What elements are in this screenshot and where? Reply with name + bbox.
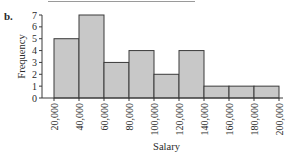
histogram-bar <box>204 86 229 98</box>
x-tick-label: 140,000 <box>199 103 210 136</box>
x-tick-label: 100,000 <box>149 103 160 136</box>
x-tick-label: 120,000 <box>174 103 185 136</box>
histogram-bar <box>254 86 279 98</box>
y-tick-label: 5 <box>32 33 37 44</box>
histogram-bar <box>179 51 204 98</box>
y-tick-label: 6 <box>32 21 37 32</box>
histogram-bar <box>229 86 254 98</box>
x-tick-label: 200,000 <box>274 103 285 136</box>
y-tick-label: 7 <box>32 10 37 21</box>
histogram-bar <box>129 51 154 98</box>
y-tick-label: 4 <box>32 45 37 56</box>
x-tick-label: 180,000 <box>249 103 260 136</box>
x-tick-label: 40,000 <box>74 103 85 131</box>
histogram-bar <box>54 39 79 98</box>
histogram-bar <box>154 74 179 98</box>
x-tick-label: 60,000 <box>99 103 110 131</box>
x-tick-label: 20,000 <box>49 103 60 131</box>
y-tick-label: 3 <box>32 57 37 68</box>
histogram-bar <box>104 62 129 98</box>
histogram-bar <box>79 15 104 98</box>
x-axis-title: Salary <box>153 141 181 152</box>
x-tick-label: 160,000 <box>224 103 235 136</box>
y-tick-label: 0 <box>32 93 37 104</box>
y-tick-label: 1 <box>32 81 37 92</box>
y-tick-label: 2 <box>32 69 37 80</box>
y-axis-title: Frequency <box>16 34 27 79</box>
x-tick-label: 80,000 <box>124 103 135 131</box>
histogram-chart: 0123456720,00040,00060,00080,000100,0001… <box>0 0 291 155</box>
